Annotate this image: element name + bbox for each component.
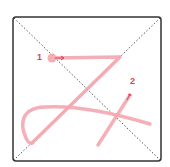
stroke-loop xyxy=(23,107,150,144)
stroke-order-label-1: 1 xyxy=(37,53,42,62)
stroke-2 xyxy=(98,95,130,145)
stroke-order-diagram xyxy=(0,0,170,167)
stroke-order-label-2: 2 xyxy=(130,77,135,86)
